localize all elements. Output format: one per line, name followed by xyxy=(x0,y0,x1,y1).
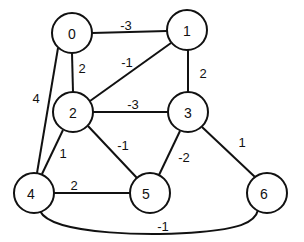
edge-2-5 xyxy=(88,126,137,178)
node-5-label: 5 xyxy=(142,186,150,202)
edge-label-2-4: 1 xyxy=(59,146,66,161)
graph-diagram: -3 2 4 -1 2 -3 1 -1 -2 1 2 -1 0 1 2 3 4 xyxy=(0,0,304,242)
node-5-circle xyxy=(130,173,170,213)
node-1: 1 xyxy=(167,10,207,50)
node-2-label: 2 xyxy=(69,105,77,121)
node-2: 2 xyxy=(53,92,93,132)
node-4-label: 4 xyxy=(27,186,35,202)
node-6: 6 xyxy=(247,173,287,213)
edge-3-5 xyxy=(159,131,180,175)
node-0-label: 0 xyxy=(68,26,76,42)
edge-label-3-6: 1 xyxy=(238,135,245,150)
node-6-label: 6 xyxy=(260,186,268,202)
edge-label-1-2: -1 xyxy=(121,55,133,70)
node-0: 0 xyxy=(52,13,92,53)
node-3: 3 xyxy=(168,92,208,132)
node-3-label: 3 xyxy=(184,105,192,121)
node-4: 4 xyxy=(14,173,54,213)
edge-label-4-6: -1 xyxy=(157,219,169,234)
edge-1-2 xyxy=(90,43,171,101)
edge-label-0-4: 4 xyxy=(32,91,39,106)
edge-label-1-3: 2 xyxy=(199,66,206,81)
edge-label-2-5: -1 xyxy=(117,138,129,153)
edge-3-6 xyxy=(202,127,255,177)
edge-label-3-5: -2 xyxy=(178,150,190,165)
edge-label-0-1: -3 xyxy=(120,18,132,33)
edge-0-2 xyxy=(72,53,73,92)
node-5: 5 xyxy=(130,173,170,213)
edge-label-2-3: -3 xyxy=(127,97,139,112)
edge-label-0-2: 2 xyxy=(78,61,85,76)
edge-label-4-5: 2 xyxy=(70,178,77,193)
node-1-label: 1 xyxy=(183,23,191,39)
